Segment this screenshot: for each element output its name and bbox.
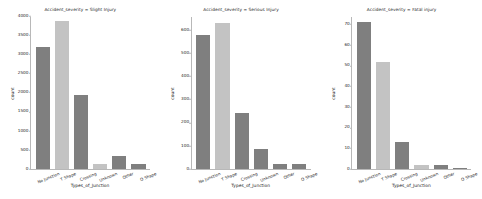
y-tick-label: 60: [344, 43, 352, 47]
y-tick-label: 30: [344, 105, 352, 109]
plot-area: 0100200300400500600No JunctionT ShapeCro…: [191, 17, 311, 170]
y-axis-label-text: count: [170, 87, 175, 99]
facet-title: Accident_severity = Fatal injury: [321, 7, 482, 12]
y-tick-label: 100: [181, 144, 192, 148]
bar[interactable]: [196, 35, 210, 169]
bar-slot: [213, 17, 232, 169]
bar-slot: [91, 17, 110, 169]
bar[interactable]: [93, 164, 107, 169]
bar[interactable]: [357, 22, 371, 169]
y-axis-label-text: count: [10, 87, 15, 99]
facet-panel-0: Accident_severity = Slight Injurycount05…: [0, 0, 161, 199]
figure-canvas: Accident_severity = Slight Injurycount05…: [0, 0, 482, 199]
bar-slot: [354, 17, 373, 169]
bar-slot: [374, 17, 393, 169]
bar-slot: [412, 17, 431, 169]
y-tick-label: 2500: [18, 71, 31, 75]
y-tick-label: 500: [181, 51, 192, 55]
y-tick-label: 70: [344, 22, 352, 26]
x-tick-label: O Shape: [300, 172, 318, 183]
y-tick-label: 3500: [18, 33, 31, 37]
y-tick-label: 400: [181, 74, 192, 78]
bar-slot: [194, 17, 213, 169]
x-tick-label: O Shape: [461, 172, 479, 183]
y-tick-label: 500: [20, 148, 31, 152]
bar-slot: [232, 17, 251, 169]
bar-slot: [71, 17, 90, 169]
x-tick-label: Crossing: [79, 172, 97, 183]
plot-area: 010203040506070No JunctionT ShapeCrossin…: [351, 17, 471, 170]
bar[interactable]: [131, 164, 145, 169]
x-axis-label: Types_of_Junction: [351, 183, 471, 188]
x-tick-label: Crossing: [401, 172, 419, 183]
x-tick-label: Unknown: [420, 172, 439, 183]
y-tick-label: 200: [181, 121, 192, 125]
bar-group: [31, 17, 150, 169]
bar[interactable]: [36, 47, 50, 169]
bar-slot: [33, 17, 52, 169]
y-axis-label: count: [330, 17, 336, 170]
bar-slot: [270, 17, 289, 169]
bar-slot: [129, 17, 148, 169]
bar[interactable]: [395, 142, 409, 169]
x-tick-label: O Shape: [140, 172, 158, 183]
y-tick-label: 40: [344, 84, 352, 88]
x-tick-label: Unknown: [99, 172, 118, 183]
x-tick-label: T Shape: [381, 172, 398, 182]
bar[interactable]: [215, 23, 229, 169]
bar[interactable]: [292, 164, 306, 169]
x-tick-label: T Shape: [221, 172, 238, 182]
bar[interactable]: [112, 156, 126, 169]
bar-slot: [450, 17, 469, 169]
bar-slot: [52, 17, 71, 169]
bar[interactable]: [414, 165, 428, 169]
y-tick-label: 600: [181, 28, 192, 32]
y-tick-label: 10: [344, 146, 352, 150]
bar[interactable]: [376, 62, 390, 170]
facet-panel-1: Accident_severity = Serious Injurycount0…: [161, 0, 322, 199]
bar[interactable]: [235, 113, 249, 169]
x-tick-label: Other: [443, 172, 455, 180]
y-tick-label: 20: [344, 126, 352, 130]
bar[interactable]: [254, 149, 268, 169]
x-axis-label: Types_of_Junction: [30, 183, 150, 188]
y-tick-label: 50: [344, 64, 352, 68]
bar[interactable]: [273, 164, 287, 169]
bar-slot: [251, 17, 270, 169]
bar-slot: [431, 17, 450, 169]
bar[interactable]: [74, 95, 88, 169]
x-tick-label: T Shape: [60, 172, 77, 182]
x-axis-label: Types_of_Junction: [191, 183, 311, 188]
bar[interactable]: [453, 168, 467, 169]
bar[interactable]: [55, 21, 69, 169]
y-axis-label: count: [9, 17, 15, 170]
y-tick-label: 2000: [18, 90, 31, 94]
y-tick-label: 1500: [18, 110, 31, 114]
x-tick-label: Unknown: [260, 172, 279, 183]
bar[interactable]: [434, 165, 448, 169]
bar-slot: [290, 17, 309, 169]
x-tick-label: Crossing: [240, 172, 258, 183]
bar-group: [192, 17, 311, 169]
x-tick-label: Other: [283, 172, 295, 180]
y-tick-label: 3000: [18, 52, 31, 56]
bar-group: [352, 17, 471, 169]
y-tick-label: 300: [181, 97, 192, 101]
facet-title: Accident_severity = Slight Injury: [0, 7, 161, 12]
x-tick-label: Other: [122, 172, 134, 180]
y-tick-label: 1000: [18, 129, 31, 133]
bar-slot: [393, 17, 412, 169]
facet-title: Accident_severity = Serious Injury: [161, 7, 322, 12]
y-tick-label: 4000: [18, 14, 31, 18]
y-axis-label-text: count: [331, 87, 336, 99]
bar-slot: [110, 17, 129, 169]
y-axis-label: count: [170, 17, 176, 170]
facet-panel-2: Accident_severity = Fatal injurycount010…: [321, 0, 482, 199]
plot-area: 05001000150020002500300035004000No Junct…: [30, 17, 150, 170]
